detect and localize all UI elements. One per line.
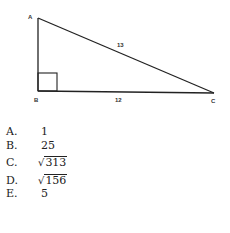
right-angle-marker <box>38 73 57 91</box>
right-triangle <box>0 0 230 110</box>
sqrt-expression: √ 156 <box>38 174 67 187</box>
side-ac-label: 13 <box>117 42 124 48</box>
choice-value: 156 <box>44 174 67 186</box>
vertex-b-label: B <box>34 97 38 103</box>
choice-value: 1 <box>41 125 48 138</box>
choice-c[interactable]: C. √ 313 <box>0 156 120 170</box>
side-bc-label: 12 <box>115 97 122 103</box>
triangle-diagram: A B C 13 12 <box>0 0 230 110</box>
choice-value: 25 <box>41 139 55 152</box>
sqrt-expression: √ 313 <box>38 156 67 169</box>
vertex-c-label: C <box>211 98 215 104</box>
choice-value: 5 <box>41 187 48 200</box>
choice-value: 313 <box>44 156 67 168</box>
choice-d[interactable]: D. √ 156 <box>0 174 120 188</box>
choice-letter: D. <box>6 174 18 187</box>
choice-e[interactable]: E. 5 <box>0 187 120 201</box>
choice-letter: B. <box>6 139 18 152</box>
choice-letter: E. <box>6 187 18 200</box>
choice-b[interactable]: B. 25 <box>0 139 120 153</box>
choice-a[interactable]: A. 1 <box>0 125 120 139</box>
choice-letter: C. <box>6 156 18 169</box>
vertex-a-label: A <box>28 14 32 20</box>
choice-letter: A. <box>6 125 17 138</box>
